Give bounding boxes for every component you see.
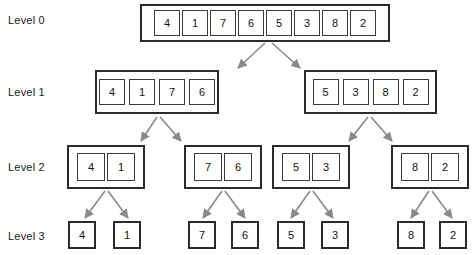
level-2-array-2: 7 6 bbox=[184, 145, 262, 189]
level-0-cell-0: 4 bbox=[154, 10, 180, 36]
level-3-leaf-3: 6 bbox=[231, 221, 259, 249]
level-0-cell-5: 3 bbox=[294, 10, 320, 36]
level-1-right-cell-1: 3 bbox=[343, 79, 369, 105]
level-2-g1-cell-0: 4 bbox=[77, 153, 105, 181]
level-0-cell-6: 8 bbox=[322, 10, 348, 36]
level-3-leaf-4: 5 bbox=[277, 221, 305, 249]
level-2-label: Level 2 bbox=[8, 161, 45, 173]
level-3-leaf-5: 3 bbox=[321, 221, 349, 249]
level-1-left-cell-2: 7 bbox=[159, 79, 185, 105]
level-3-leaf-1: 1 bbox=[113, 221, 141, 249]
level-2-g3-cell-0: 5 bbox=[282, 153, 310, 181]
arrow-l2c-to-l3-right bbox=[313, 191, 333, 218]
level-0-label: Level 0 bbox=[8, 14, 45, 26]
level-2-g4-cell-1: 2 bbox=[431, 153, 459, 181]
level-0-cell-2: 7 bbox=[210, 10, 236, 36]
level-1-right-cell-3: 2 bbox=[403, 79, 429, 105]
arrow-l2c-to-l3-left bbox=[291, 191, 310, 218]
level-1-right-cell-0: 5 bbox=[313, 79, 339, 105]
level-2-g4-cell-0: 8 bbox=[401, 153, 429, 181]
arrow-l2a-to-l3-left bbox=[85, 191, 105, 218]
arrow-l2b-to-l3-right bbox=[225, 191, 245, 218]
arrow-l0-to-l1-right bbox=[272, 43, 300, 68]
level-0-cell-4: 5 bbox=[266, 10, 292, 36]
arrow-l1a-to-l2-left bbox=[141, 117, 157, 141]
level-2-g2-cell-1: 6 bbox=[224, 153, 252, 181]
level-0-cell-3: 6 bbox=[238, 10, 264, 36]
level-3-leaf-6: 8 bbox=[397, 221, 425, 249]
level-3-leaf-7: 2 bbox=[439, 221, 467, 249]
level-0-cell-7: 2 bbox=[350, 10, 376, 36]
arrow-l1a-to-l2-right bbox=[160, 117, 181, 141]
merge-sort-tree-diagram: Level 0 4 1 7 6 5 3 8 2 Level 1 4 1 7 6 … bbox=[0, 0, 475, 255]
level-0-cell-1: 1 bbox=[182, 10, 208, 36]
level-3-label: Level 3 bbox=[8, 230, 45, 242]
arrow-l2d-to-l3-left bbox=[411, 191, 429, 218]
level-3-leaf-0: 4 bbox=[68, 221, 96, 249]
level-1-left-cell-3: 6 bbox=[189, 79, 215, 105]
level-2-array-3: 5 3 bbox=[272, 145, 350, 189]
level-3-leaf-2: 7 bbox=[188, 221, 216, 249]
arrow-l2d-to-l3-right bbox=[432, 191, 452, 218]
level-2-g1-cell-1: 1 bbox=[107, 153, 135, 181]
level-1-label: Level 1 bbox=[8, 86, 45, 98]
level-1-left-cell-1: 1 bbox=[129, 79, 155, 105]
level-1-left-cell-0: 4 bbox=[99, 79, 125, 105]
level-1-right-cell-2: 8 bbox=[373, 79, 399, 105]
level-2-array-4: 8 2 bbox=[391, 145, 469, 189]
level-2-g3-cell-1: 3 bbox=[312, 153, 340, 181]
level-1-array-right: 5 3 8 2 bbox=[304, 70, 437, 114]
arrow-l1b-to-l2-right bbox=[371, 117, 392, 141]
level-1-array-left: 4 1 7 6 bbox=[95, 70, 219, 114]
arrow-l1b-to-l2-left bbox=[349, 117, 368, 141]
level-2-g2-cell-0: 7 bbox=[194, 153, 222, 181]
level-2-array-1: 4 1 bbox=[67, 145, 145, 189]
arrow-l2a-to-l3-right bbox=[108, 191, 128, 218]
arrow-l2b-to-l3-left bbox=[203, 191, 222, 218]
arrow-l0-to-l1-left bbox=[238, 43, 265, 68]
level-0-array: 4 1 7 6 5 3 8 2 bbox=[140, 4, 390, 42]
